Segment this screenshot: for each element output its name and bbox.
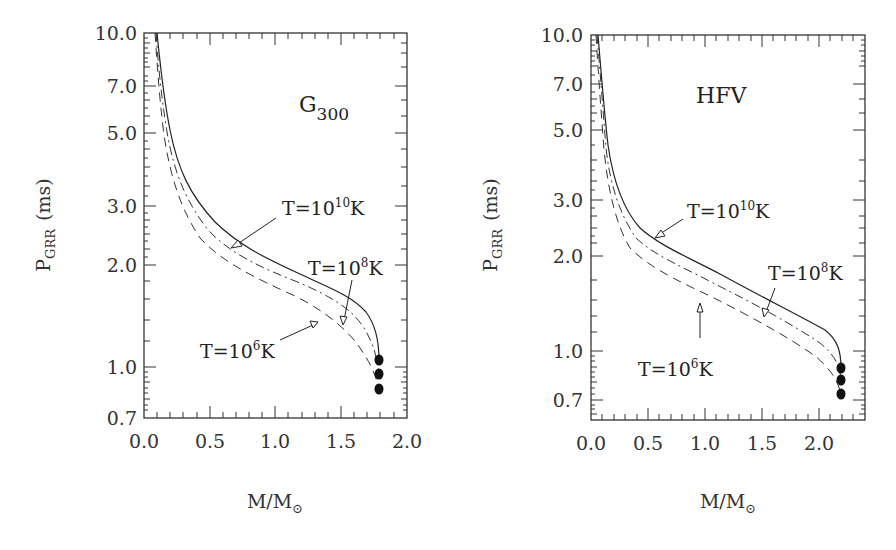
- svg-text:0.0: 0.0: [576, 432, 606, 454]
- svg-text:0.7: 0.7: [553, 389, 583, 411]
- left-annotation-1e6K: T=106K: [200, 321, 318, 362]
- svg-text:0.5: 0.5: [195, 430, 225, 452]
- svg-text:7.0: 7.0: [553, 73, 583, 95]
- svg-text:2.0: 2.0: [107, 254, 137, 276]
- svg-text:0.7: 0.7: [107, 407, 137, 429]
- right-y-tick-labels: 10.0 7.0 5.0 3.0 2.0 1.0 0.7: [541, 24, 583, 411]
- svg-text:0.5: 0.5: [633, 432, 663, 454]
- svg-text:1.5: 1.5: [326, 430, 356, 452]
- svg-text:T=1010K: T=1010K: [687, 199, 770, 222]
- left-y-major-ticks: [144, 43, 407, 410]
- chart-right-hfv: T=1010K T=108K T=106K HFV 10.0 7.0 5.0 3…: [479, 24, 865, 516]
- chart-left-g300: T=1010K T=108K T=106K G300 10.0 7.0 5.0 …: [32, 22, 422, 516]
- right-endpoint-dots: [837, 363, 846, 400]
- svg-text:T=108K: T=108K: [308, 256, 383, 279]
- svg-text:T=108K: T=108K: [768, 261, 843, 284]
- svg-text:3.0: 3.0: [107, 195, 137, 217]
- svg-text:1.0: 1.0: [260, 430, 290, 452]
- left-endpoint-dots: [375, 355, 384, 395]
- svg-text:2.0: 2.0: [392, 430, 422, 452]
- right-x-axis-label: M/M⊙: [700, 490, 756, 516]
- svg-text:2.0: 2.0: [804, 432, 834, 454]
- left-y-minor-ticks: [144, 38, 150, 410]
- svg-text:T=106K: T=106K: [638, 357, 713, 380]
- left-x-axis-label: M/M⊙: [247, 490, 303, 516]
- right-annotation-1e8K: T=108K: [762, 261, 843, 317]
- svg-text:10.0: 10.0: [541, 24, 583, 46]
- svg-text:7.0: 7.0: [107, 75, 137, 97]
- svg-text:1.0: 1.0: [107, 356, 137, 378]
- figure: T=1010K T=108K T=106K G300 10.0 7.0 5.0 …: [0, 0, 896, 550]
- svg-text:2.0: 2.0: [553, 245, 583, 267]
- left-chart-title: G300: [299, 92, 349, 124]
- left-annotation-1e8K: T=108K: [308, 256, 383, 325]
- svg-text:5.0: 5.0: [107, 122, 137, 144]
- left-x-tick-labels: 0.0 0.5 1.0 1.5 2.0: [129, 430, 422, 452]
- svg-text:3.0: 3.0: [553, 189, 583, 211]
- svg-text:1.0: 1.0: [553, 340, 583, 362]
- left-y-tick-labels: 10.0 7.0 5.0 3.0 2.0 1.0 0.7: [95, 22, 137, 429]
- svg-text:0.0: 0.0: [129, 430, 159, 452]
- right-y-axis-label: PGRR(ms): [479, 178, 505, 271]
- svg-text:5.0: 5.0: [553, 119, 583, 141]
- svg-text:T=106K: T=106K: [200, 339, 275, 362]
- right-annotation-1e6K: T=106K: [638, 303, 713, 380]
- svg-text:1.0: 1.0: [690, 432, 720, 454]
- right-annotation-1e10K: T=1010K: [655, 199, 770, 238]
- right-chart-title: HFV: [696, 83, 747, 108]
- left-y-axis-label: PGRR(ms): [32, 178, 58, 271]
- svg-text:T=1010K: T=1010K: [282, 196, 365, 219]
- left-annotation-1e10K: T=1010K: [231, 196, 365, 248]
- left-curve-1e6K: [155, 33, 379, 389]
- svg-text:10.0: 10.0: [95, 22, 137, 44]
- svg-text:1.5: 1.5: [747, 432, 777, 454]
- right-x-tick-labels: 0.0 0.5 1.0 1.5 2.0: [576, 432, 834, 454]
